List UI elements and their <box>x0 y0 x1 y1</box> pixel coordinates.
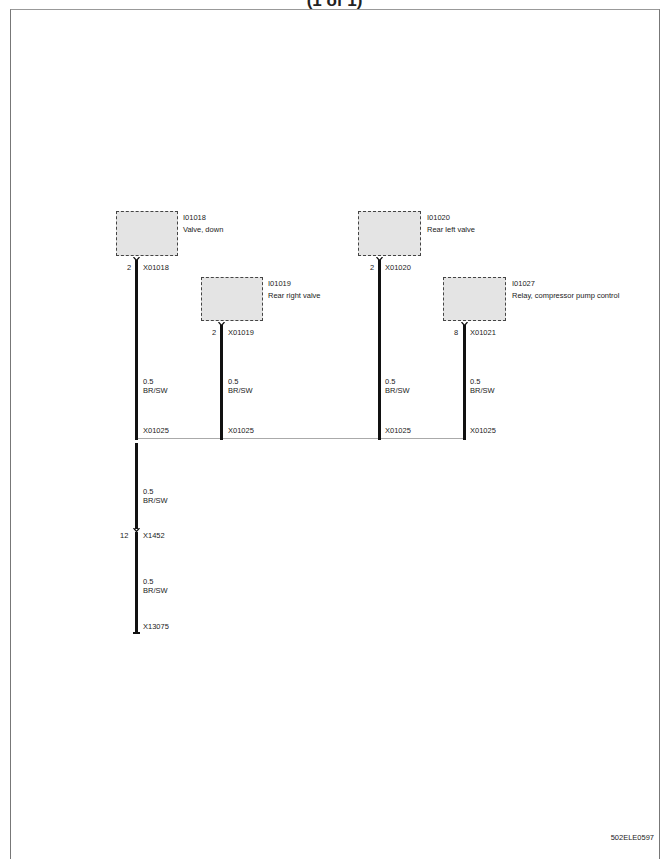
wire-color: BR/SW <box>143 496 168 505</box>
connector-label: X01020 <box>385 262 411 273</box>
wire-size: 0.5 <box>470 377 480 386</box>
splice-point <box>135 437 138 440</box>
pin-number: 12 <box>120 530 128 541</box>
component-name: Valve, down <box>183 224 223 235</box>
wire-color: BR/SW <box>385 386 410 395</box>
component-box-rear-left-valve[interactable] <box>358 211 421 256</box>
component-name: Rear right valve <box>268 290 321 301</box>
wire[interactable] <box>463 325 466 437</box>
splice-point <box>220 437 223 440</box>
component-name: Rear left valve <box>427 224 475 235</box>
wire[interactable] <box>220 325 223 437</box>
wire[interactable] <box>135 532 138 632</box>
component-box-rear-right-valve[interactable] <box>201 277 263 321</box>
wire-size: 0.5 <box>228 377 238 386</box>
pin-number: 2 <box>370 262 374 273</box>
diagram-frame <box>10 9 660 859</box>
wire-size: 0.5 <box>143 377 153 386</box>
wire[interactable] <box>135 260 138 437</box>
component-id: I01019 <box>268 278 291 289</box>
wire[interactable] <box>135 443 138 529</box>
wire-size: 0.5 <box>385 377 395 386</box>
component-box-valve-down[interactable] <box>116 211 178 256</box>
splice-label: X01025 <box>385 425 411 436</box>
splice-label: X01025 <box>228 425 254 436</box>
component-id: I01020 <box>427 212 450 223</box>
splice-label: X01025 <box>470 425 496 436</box>
splice-point <box>463 437 466 440</box>
wire-color: BR/SW <box>470 386 495 395</box>
wire-color: BR/SW <box>228 386 253 395</box>
pin-number: 2 <box>212 327 216 338</box>
component-box-relay-compressor[interactable] <box>443 277 506 321</box>
splice-bus <box>136 438 465 439</box>
component-id: I01018 <box>183 212 206 223</box>
component-id: I01027 <box>512 278 535 289</box>
component-name: Relay, compressor pump control <box>512 290 619 301</box>
splice-point <box>378 437 381 440</box>
wire[interactable] <box>378 260 381 437</box>
ground-terminal-icon <box>133 632 140 634</box>
wire-color: BR/SW <box>143 586 168 595</box>
wire-size: 0.5 <box>143 577 153 586</box>
connector-label: X01021 <box>470 327 496 338</box>
connector-label: X13075 <box>143 621 169 632</box>
wire-size: 0.5 <box>143 487 153 496</box>
connector-label: X01018 <box>143 262 169 273</box>
pin-number: 2 <box>127 262 131 273</box>
connector-label: X1452 <box>143 530 165 541</box>
connector-label: X01019 <box>228 327 254 338</box>
pin-number: 8 <box>454 327 458 338</box>
diagram-code: 502ELE0597 <box>611 833 654 842</box>
splice-label: X01025 <box>143 425 169 436</box>
wire-color: BR/SW <box>143 386 168 395</box>
